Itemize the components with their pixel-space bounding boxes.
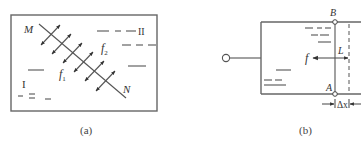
caption-b: (b) — [299, 124, 312, 137]
label-m: M — [23, 23, 34, 35]
force-arrow-icon — [63, 43, 82, 63]
interface-line-mn — [39, 24, 126, 98]
force-arrow-icon — [85, 61, 104, 81]
figure-canvas: M N I II f1 f2 (a) — [0, 0, 361, 143]
figure-b: B A f L Δx (b) — [222, 7, 361, 137]
label-phase-1: I — [22, 78, 26, 90]
label-f: f — [305, 51, 310, 65]
label-n: N — [122, 83, 131, 95]
point-b-icon — [333, 20, 338, 25]
label-a: A — [325, 82, 333, 93]
handle-ring-icon — [222, 54, 229, 61]
force-arrow-icon — [96, 71, 115, 91]
film-molecule-marks — [264, 28, 331, 85]
label-dx: Δx — [337, 100, 348, 110]
label-f2: f2 — [101, 41, 108, 57]
force-arrow-icon — [74, 52, 93, 72]
label-l: L — [337, 45, 344, 56]
label-b: B — [330, 7, 336, 18]
label-f1: f1 — [59, 67, 66, 83]
caption-a: (a) — [80, 124, 93, 137]
figure-a: M N I II f1 f2 (a) — [11, 15, 157, 137]
label-phase-2: II — [138, 26, 145, 37]
point-a-icon — [333, 92, 338, 97]
